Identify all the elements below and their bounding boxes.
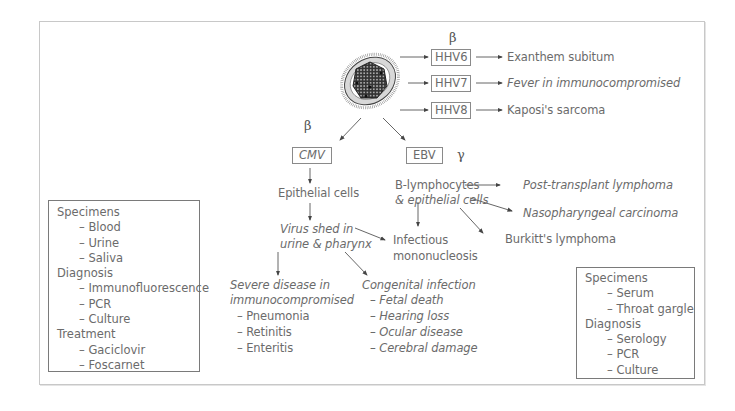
ebv-box: EBV — [406, 147, 443, 164]
ebv-outcome-burkitt: Burkitt's lymphoma — [505, 232, 616, 247]
arrow-virusshed-congenital — [345, 252, 367, 275]
info-box-item: – Urine — [57, 236, 199, 251]
info-box-item: – Culture — [57, 312, 199, 327]
info-box-heading: Diagnosis — [585, 317, 694, 332]
info-box-heading: Specimens — [57, 205, 199, 220]
beta-label-cmv: β — [304, 118, 312, 133]
hhv6-outcome: Exanthem subitum — [507, 50, 614, 65]
severe-item: – Retinitis — [237, 325, 292, 340]
info-box-heading: Specimens — [585, 271, 694, 286]
info-box-item: – Culture — [585, 363, 694, 378]
ebv-outcome-ptl: Post-transplant lymphoma — [523, 178, 673, 193]
severe-item: – Enteritis — [237, 341, 293, 356]
info-box-item: – Immunofluorescence — [57, 281, 199, 296]
cmv-epithelial-cells: Epithelial cells — [278, 186, 359, 201]
info-box-item: – Gaciclovir — [57, 343, 199, 358]
info-box-heading: Treatment — [57, 327, 199, 342]
congenital-item: – Hearing loss — [370, 309, 449, 324]
hhv8-outcome: Kaposi's sarcoma — [507, 103, 605, 118]
congenital-item: – Cerebral damage — [370, 341, 478, 356]
info-box-item: – Serum — [585, 286, 694, 301]
ebv-info-box: Specimens– Serum– Throat gargleDiagnosis… — [576, 267, 695, 379]
ebv-outcome-npc: Nasopharyngeal carcinoma — [523, 206, 678, 221]
hhv7-box: HHV7 — [431, 75, 471, 92]
info-box-item: – PCR — [57, 297, 199, 312]
info-box-item: – Foscarnet — [57, 358, 199, 373]
cmv-virus-shed-line2: urine & pharynx — [280, 237, 372, 252]
info-box-item: – Throat gargle — [585, 302, 694, 317]
severe-item: – Pneumonia — [237, 309, 309, 324]
hhv6-box: HHV6 — [431, 49, 471, 66]
infectious-mono-line2: mononucleosis — [393, 249, 478, 264]
gamma-label-ebv: γ — [457, 147, 465, 162]
severe-disease-line2: immunocompromised — [230, 293, 354, 308]
info-box-item: – Saliva — [57, 251, 199, 266]
congenital-item: – Fetal death — [370, 293, 443, 308]
ebv-cells-line1: B-lymphocytes — [395, 178, 479, 193]
ebv-cells-line2: & epithelial cells — [395, 193, 488, 208]
info-box-heading: Diagnosis — [57, 266, 199, 281]
herpesvirus-icon — [337, 46, 403, 116]
hhv7-outcome: Fever in immunocompromised — [507, 76, 680, 91]
info-box-item: – Serology — [585, 332, 694, 347]
cmv-virus-shed-line1: Virus shed in — [280, 222, 353, 237]
congenital-title: Congenital infection — [362, 278, 476, 293]
arrow-virus-cmv — [340, 118, 361, 140]
infectious-mono-line1: Infectious — [393, 233, 448, 248]
info-box-item: – Blood — [57, 220, 199, 235]
cmv-box: CMV — [292, 147, 332, 164]
severe-disease-line1: Severe disease in — [230, 278, 330, 293]
arrow-ebv-cells-burkitt — [460, 208, 483, 233]
congenital-item: – Ocular disease — [370, 325, 463, 340]
hhv8-box: HHV8 — [431, 102, 471, 119]
beta-label-hhv: β — [449, 30, 457, 45]
cmv-info-box: Specimens– Blood– Urine– SalivaDiagnosis… — [48, 200, 200, 372]
info-box-item: – PCR — [585, 347, 694, 362]
arrow-virus-ebv — [383, 118, 405, 140]
